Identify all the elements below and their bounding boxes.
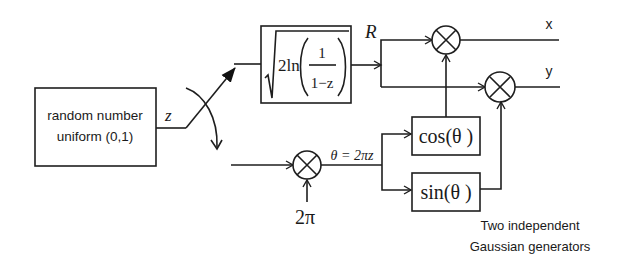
multiplier-phase <box>293 151 321 179</box>
block-diagram: random number uniform (0,1) z 2ln 1 1−z … <box>0 0 635 273</box>
sin-block: sin(θ ) <box>412 173 480 211</box>
caption-line1: Two independent <box>480 218 579 233</box>
output-y-label: y <box>546 63 553 79</box>
random-number-block: random number uniform (0,1) <box>35 88 156 166</box>
cos-block: cos(θ ) <box>412 117 480 155</box>
caption-line2: Gaussian generators <box>470 239 591 254</box>
multiplier-y <box>485 72 515 102</box>
sin-label: sin(θ ) <box>420 181 471 204</box>
cos-label: cos(θ ) <box>419 125 474 148</box>
random-block-line1: random number <box>47 108 143 123</box>
numerator-label: 1 <box>318 45 326 61</box>
z-label: z <box>164 106 172 125</box>
theta-label: θ = 2πz <box>331 148 374 163</box>
denominator-label: 1−z <box>311 75 334 91</box>
coef-label: 2ln <box>278 56 300 75</box>
switch <box>156 64 261 149</box>
multiplier-x <box>432 26 460 54</box>
output-x-label: x <box>546 16 553 32</box>
magnitude-block: 2ln 1 1−z <box>261 26 351 103</box>
two-pi-label: 2π <box>295 206 315 228</box>
r-label: R <box>364 21 377 42</box>
random-block-line2: uniform (0,1) <box>57 129 134 144</box>
